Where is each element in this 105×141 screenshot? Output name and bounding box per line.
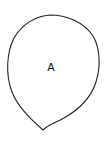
node-label: A [44,60,58,76]
